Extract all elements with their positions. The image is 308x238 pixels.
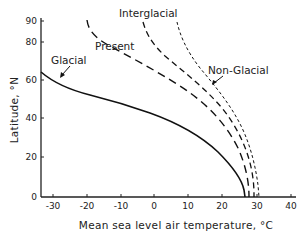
y-tick-labels: 0 20 40 60 80 90	[26, 16, 38, 202]
latitude-temperature-chart: 0 20 40 60 80 90 -30 -20 -10 0 10 20 30 …	[0, 0, 308, 238]
svg-text:30: 30	[251, 201, 263, 211]
x-axis-title: Mean sea level air temperature, °C	[79, 219, 273, 231]
svg-text:60: 60	[26, 75, 38, 85]
x-tick-labels: -30 -20 -10 0 10 20 30 40	[46, 201, 297, 211]
series-non-glacial	[177, 22, 259, 197]
svg-text:-30: -30	[46, 201, 61, 211]
series-glacial	[41, 72, 245, 197]
label-glacial: Glacial	[51, 54, 87, 66]
svg-text:-10: -10	[114, 201, 129, 211]
svg-text:-20: -20	[80, 201, 95, 211]
svg-text:20: 20	[216, 201, 228, 211]
svg-text:40: 40	[285, 201, 297, 211]
svg-text:10: 10	[182, 201, 194, 211]
label-non-glacial: Non-Glacial	[208, 64, 269, 76]
series-interglacial	[143, 22, 254, 197]
svg-text:0: 0	[151, 201, 157, 211]
svg-text:40: 40	[26, 113, 38, 123]
label-present: Present	[95, 40, 134, 52]
svg-text:80: 80	[26, 37, 38, 47]
label-interglacial: Interglacial	[119, 7, 178, 19]
y-axis-title: Latitude, °N	[8, 77, 20, 144]
svg-text:20: 20	[26, 152, 38, 162]
svg-text:0: 0	[31, 192, 37, 202]
svg-text:90: 90	[26, 16, 38, 26]
